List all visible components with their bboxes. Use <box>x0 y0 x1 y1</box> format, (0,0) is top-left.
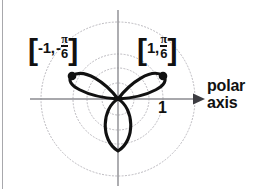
point-label-left: [-1,-π6] <box>28 34 78 65</box>
polar-axis-arrowhead <box>193 94 205 105</box>
right-open-bracket: [ <box>137 33 147 66</box>
polar-axis-caption-line1: polar <box>207 77 245 94</box>
point-marker-right <box>159 72 168 81</box>
petal-upper-left <box>70 73 118 99</box>
radial-tick-label-1: 1 <box>158 100 167 116</box>
polar-rose-figure: [-1,-π6] [1,π6] 1 polar axis <box>0 0 273 189</box>
polar-axis-caption-line2: axis <box>207 94 245 111</box>
polar-axis-caption: polar axis <box>207 77 245 111</box>
right-r-value: 1 <box>147 39 155 56</box>
left-close-bracket: ] <box>68 33 78 66</box>
right-close-bracket: ] <box>167 33 177 66</box>
point-marker-left <box>68 72 77 81</box>
petal-upper-right <box>118 73 165 99</box>
left-open-bracket: [ <box>28 33 38 66</box>
point-label-right: [1,π6] <box>137 34 177 65</box>
left-r-value: -1 <box>38 39 51 56</box>
